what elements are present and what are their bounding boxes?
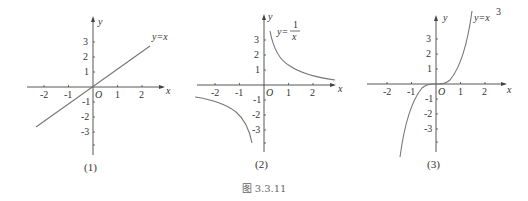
y-tick-label: -2: [252, 109, 260, 120]
y-tick-label: -3: [424, 123, 432, 134]
x-tick-label: 1: [286, 87, 291, 98]
y-tick-label: 1: [84, 66, 89, 77]
x-tick-label: -1: [235, 87, 243, 98]
origin-label: O: [95, 89, 102, 100]
x-axis-label: x: [506, 84, 512, 95]
y-tick-label: -1: [253, 94, 261, 105]
y-tick-label: -1: [82, 96, 90, 107]
y-tick-label: -2: [424, 108, 432, 119]
x-tick-label: 2: [139, 89, 144, 100]
svg-text:x: x: [291, 31, 297, 42]
panel-label: (2): [255, 158, 268, 171]
x-tick-label: 2: [482, 86, 487, 97]
panel-label: (3): [427, 158, 440, 171]
function-label: y=x: [151, 31, 168, 42]
y-tick-label: 3: [254, 34, 259, 45]
x-axis-label: x: [165, 85, 171, 96]
y-tick-label: -3: [81, 126, 89, 137]
y-tick-label: 1: [255, 64, 260, 75]
x-axis-arrow-icon: [330, 83, 336, 87]
y-axis-label: y: [442, 12, 448, 23]
y-tick-label: -3: [252, 124, 260, 135]
figure-canvas: -2 -1 1 2 3 2 1 -1 -2 -3 O x y y=x (1): [0, 0, 528, 201]
svg-text:y=: y=: [276, 26, 288, 37]
graph-2: -2 -1 1 2 3 2 1 -1 -2 -3 O x y y= 1 x (2…: [195, 11, 343, 171]
x-tick-label: -2: [383, 86, 391, 97]
curve-hyperbola-positive: [270, 31, 335, 80]
y-tick-label: -2: [81, 111, 89, 122]
y-axis-arrow-icon: [91, 16, 95, 22]
y-tick-label: 2: [83, 51, 88, 62]
x-axis-arrow-icon: [159, 85, 165, 89]
y-axis-label: y: [97, 16, 103, 27]
svg-text:3: 3: [496, 6, 501, 17]
y-axis-arrow-icon: [434, 15, 438, 21]
y-tick-label: 3: [426, 33, 431, 44]
y-tick-label: 2: [426, 48, 431, 59]
graph-3: -2 -1 1 2 3 2 1 -1 -2 -3 O x y y=x 3 (3): [367, 6, 512, 171]
x-axis-label: x: [337, 83, 343, 94]
y-axis-label: y: [267, 11, 273, 22]
function-label: y=x 3: [473, 6, 501, 23]
x-tick-label: -1: [407, 86, 415, 97]
svg-text:1: 1: [293, 19, 298, 30]
x-tick-label: -1: [64, 89, 72, 100]
y-axis-arrow-icon: [262, 14, 266, 20]
x-tick-label: 2: [310, 87, 315, 98]
panel-label: (1): [84, 161, 97, 174]
x-tick-label: 1: [458, 86, 463, 97]
y-tick-label: 3: [83, 36, 88, 47]
x-tick-label: 1: [115, 89, 120, 100]
x-tick-label: -2: [211, 87, 219, 98]
curve-hyperbola-negative: [195, 97, 252, 143]
svg-text:y=x: y=x: [473, 12, 490, 23]
figure-caption: 图 3.3.11: [242, 183, 287, 194]
x-tick-label: -2: [40, 89, 48, 100]
function-label: y= 1 x: [276, 19, 300, 42]
y-tick-label: 1: [427, 63, 432, 74]
origin-label: O: [266, 87, 273, 98]
graph-1: -2 -1 1 2 3 2 1 -1 -2 -3 O x y y=x (1): [27, 16, 171, 174]
y-tick-label: -1: [425, 93, 433, 104]
origin-label: O: [438, 86, 445, 97]
y-tick-label: 2: [254, 49, 259, 60]
